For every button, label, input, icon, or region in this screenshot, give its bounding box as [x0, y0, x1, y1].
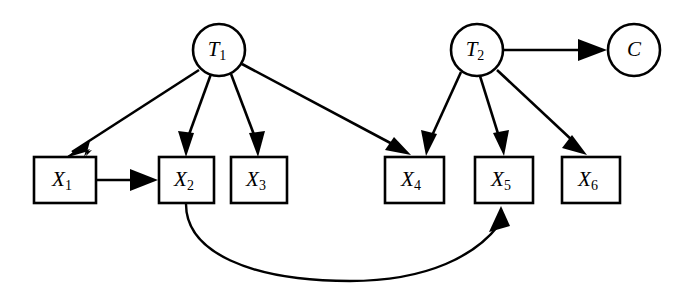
diagram-canvas: T1 T2 C X1 X2	[0, 0, 692, 298]
node-t2[interactable]: T2	[451, 24, 503, 76]
node-x5-label: X	[490, 167, 505, 191]
node-x4[interactable]: X4	[385, 157, 444, 203]
node-x1-label: X	[51, 167, 66, 191]
node-t2-subscript: 2	[477, 48, 484, 63]
node-x6-subscript: 6	[591, 178, 598, 193]
svg-text:C: C	[627, 37, 642, 61]
node-x5[interactable]: X5	[475, 157, 533, 203]
node-t1-subscript: 1	[219, 48, 226, 63]
edge-x1-x2	[96, 169, 158, 191]
node-x3-label: X	[245, 167, 260, 191]
edge-t2-x5	[480, 76, 509, 156]
graph-svg: T1 T2 C X1 X2	[0, 0, 692, 298]
node-x3-subscript: 3	[259, 178, 266, 193]
edge-t2-c	[503, 39, 607, 61]
node-x4-label: X	[400, 167, 415, 191]
edge-t2-x4	[421, 72, 461, 156]
node-x2-label: X	[173, 167, 188, 191]
edge-t1-x2	[178, 74, 211, 157]
node-x1-subscript: 1	[65, 178, 72, 193]
node-x5-subscript: 5	[504, 178, 511, 193]
node-x2-subscript: 2	[187, 178, 194, 193]
node-c-label: C	[627, 37, 642, 61]
node-x1[interactable]: X1	[34, 157, 96, 203]
node-x6[interactable]: X6	[562, 157, 620, 203]
edge-x2-x5-curved	[186, 204, 510, 281]
node-x3[interactable]: X3	[231, 157, 287, 203]
edge-t1-x1	[65, 70, 199, 158]
node-t1[interactable]: T1	[193, 24, 245, 76]
node-c[interactable]: C	[608, 24, 660, 76]
node-x6-label: X	[577, 167, 592, 191]
edge-t2-x6	[497, 70, 587, 155]
node-x2[interactable]: X2	[159, 157, 214, 203]
edge-t1-x4	[242, 64, 411, 155]
node-x4-subscript: 4	[414, 178, 421, 193]
edge-t1-x3	[231, 74, 265, 157]
